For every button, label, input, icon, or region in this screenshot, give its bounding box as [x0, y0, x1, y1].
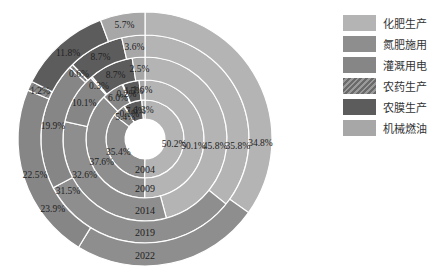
ring-year-label: 2022: [135, 250, 155, 261]
legend-swatch: [343, 36, 376, 52]
legend-swatch: [343, 57, 376, 73]
ring-year-label: 2014: [135, 205, 155, 216]
segment-value-label: 8.7%: [106, 70, 126, 80]
legend-swatch: [343, 15, 376, 31]
ring-year-label: 2004: [135, 164, 155, 175]
legend-item-pesticide-production: 农药生产: [343, 75, 427, 96]
segment-value-label: 22.5%: [23, 170, 48, 180]
segment-value-label: 32.6%: [72, 170, 97, 180]
legend-item-machinery-fuel: 机械燃油: [343, 117, 427, 138]
segment-value-label: 1.2%: [30, 86, 50, 96]
segment-value-label: 45.8%: [203, 141, 228, 151]
legend-swatch: [343, 78, 376, 94]
segment-value-label: 2.5%: [130, 64, 150, 74]
legend-label: 氮肥施用: [383, 36, 427, 52]
donut-hole: [125, 119, 165, 159]
segment-value-label: 1.3%: [134, 105, 154, 115]
segment-value-label: 34.8%: [248, 138, 273, 148]
legend-item-irrigation-electricity: 灌溉用电: [343, 54, 427, 75]
legend-item-film-production: 农膜生产: [343, 96, 427, 117]
segment-value-label: 8.7%: [91, 52, 111, 62]
legend-label: 农药生产: [383, 78, 427, 94]
segment-value-label: 1.6%: [133, 85, 153, 95]
segment-value-label: 19.9%: [41, 121, 66, 131]
legend-label: 化肥生产: [383, 15, 427, 31]
legend-label: 农膜生产: [383, 99, 427, 115]
segment-value-label: 31.5%: [56, 186, 81, 196]
donut-chart: 50.2%35.4%5.4%0.1%7.6%1.3%200450.1%37.6%…: [0, 0, 320, 277]
legend-swatch: [343, 99, 376, 115]
segment-value-label: 10.1%: [72, 98, 97, 108]
legend-item-nitrogen-application: 氮肥施用: [343, 33, 427, 54]
segment-value-label: 5.7%: [115, 20, 135, 30]
segment-value-label: 35.8%: [226, 141, 251, 151]
legend-item-fertilizer-production: 化肥生产: [343, 12, 427, 33]
segment-value-label: 0.6%: [69, 69, 89, 79]
segment-value-label: 35.4%: [106, 147, 131, 157]
legend-label: 灌溉用电: [383, 57, 427, 73]
ring-year-label: 2009: [135, 183, 155, 194]
ring-year-label: 2019: [135, 227, 155, 238]
legend-swatch: [343, 120, 376, 136]
segment-value-label: 0.3%: [89, 81, 109, 91]
legend: 化肥生产 氮肥施用 灌溉用电 农药生产 农膜生产 机械燃油: [343, 12, 427, 138]
segment-value-label: 11.8%: [56, 48, 80, 58]
segment-value-label: 23.9%: [41, 204, 66, 214]
segment-value-label: 37.6%: [89, 157, 114, 167]
legend-label: 机械燃油: [383, 120, 427, 136]
segment-value-label: 3.6%: [125, 42, 145, 52]
